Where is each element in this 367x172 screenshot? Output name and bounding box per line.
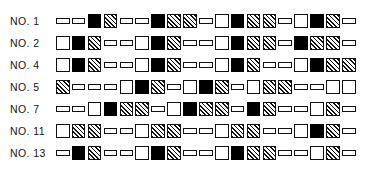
- sequence-cell-hatch: [263, 36, 277, 50]
- sequence-cell-small: [199, 40, 213, 46]
- sequence-cell-black: [72, 146, 86, 160]
- sequence-cell-hatch: [104, 14, 118, 28]
- sequence-cell-small: [278, 62, 292, 68]
- sequence-cell-hatch: [151, 80, 165, 94]
- sequence-cell-small: [135, 18, 149, 24]
- sequence-cell-white: [183, 80, 197, 94]
- sequence-cell-small: [120, 18, 134, 24]
- sequence-cell-group: [56, 76, 356, 98]
- sequence-cell-hatch: [72, 124, 86, 138]
- sequence-cell-hatch: [342, 58, 356, 72]
- sequence-cell-white: [215, 14, 229, 28]
- sequence-cell-black: [151, 146, 165, 160]
- sequence-cell-black: [88, 14, 102, 28]
- sequence-cell-hatch: [151, 124, 165, 138]
- sequence-cell-small: [120, 150, 134, 156]
- sequence-cell-hatch: [183, 14, 197, 28]
- sequence-cell-white: [135, 36, 149, 50]
- sequence-cell-white: [294, 58, 308, 72]
- sequence-cell-small: [231, 106, 245, 112]
- sequence-cell-hatch: [247, 14, 261, 28]
- sequence-cell-small: [120, 62, 134, 68]
- sequence-cell-small: [183, 62, 197, 68]
- sequence-cell-black: [183, 102, 197, 116]
- sequence-cell-group: [56, 54, 356, 76]
- sequence-cell-white: [326, 80, 340, 94]
- sequence-cell-small: [278, 40, 292, 46]
- sequence-cell-hatch: [326, 124, 340, 138]
- sequence-cell-small: [104, 40, 118, 46]
- sequence-row: NO. 4: [0, 54, 367, 76]
- sequence-cell-small: [199, 62, 213, 68]
- sequence-cell-small: [104, 84, 118, 90]
- sequence-cell-small: [183, 150, 197, 156]
- sequence-row: NO. 1: [0, 10, 367, 32]
- sequence-cell-hatch: [326, 58, 340, 72]
- sequence-cell-hatch: [247, 124, 261, 138]
- sequence-cell-group: [56, 120, 356, 142]
- sequence-cell-hatch: [263, 14, 277, 28]
- sequence-cell-black: [231, 146, 245, 160]
- sequence-cell-white: [56, 124, 70, 138]
- sequence-cell-hatch: [278, 80, 292, 94]
- sequence-cell-hatch: [56, 80, 70, 94]
- sequence-cell-white: [135, 58, 149, 72]
- sequence-cell-black: [294, 36, 308, 50]
- sequence-cell-black: [72, 58, 86, 72]
- sequence-cell-white: [167, 102, 181, 116]
- sequence-cell-black: [135, 80, 149, 94]
- sequence-cell-small: [342, 106, 356, 112]
- sequence-cell-white: [310, 146, 324, 160]
- sequence-cell-black: [199, 80, 213, 94]
- sequence-cell-small: [72, 18, 86, 24]
- sequence-row-label: NO. 1: [10, 10, 54, 32]
- sequence-row: NO. 2: [0, 32, 367, 54]
- sequence-cell-white: [294, 124, 308, 138]
- sequence-cell-white: [135, 124, 149, 138]
- sequence-cell-white: [247, 80, 261, 94]
- sequence-cell-hatch: [88, 124, 102, 138]
- sequence-cell-hatch: [247, 36, 261, 50]
- sequence-cell-white: [120, 80, 134, 94]
- sequence-cell-white: [215, 124, 229, 138]
- sequence-cell-small: [183, 40, 197, 46]
- sequence-cell-small: [231, 84, 245, 90]
- sequence-cell-group: [56, 10, 356, 32]
- sequence-cell-hatch: [247, 146, 261, 160]
- sequence-cell-hatch: [263, 146, 277, 160]
- sequence-cell-black: [310, 124, 324, 138]
- sequence-cell-hatch: [88, 146, 102, 160]
- sequence-cell-small: [199, 18, 213, 24]
- sequence-cell-small: [72, 106, 86, 112]
- sequence-row: NO. 5: [0, 76, 367, 98]
- sequence-cell-small: [263, 128, 277, 134]
- sequence-cell-black: [231, 14, 245, 28]
- sequence-cell-white: [135, 146, 149, 160]
- sequence-cell-hatch: [231, 124, 245, 138]
- sequence-cell-small: [88, 84, 102, 90]
- sequence-cell-black: [151, 36, 165, 50]
- sequence-cell-hatch: [167, 14, 181, 28]
- sequence-cell-hatch: [167, 146, 181, 160]
- sequence-cell-small: [56, 18, 70, 24]
- sequence-cell-hatch: [263, 80, 277, 94]
- sequence-cell-small: [263, 62, 277, 68]
- sequence-cell-small: [310, 84, 324, 90]
- sequence-pattern-chart: NO. 1NO. 2NO. 4NO. 5NO. 7NO. 11NO. 13: [0, 0, 367, 172]
- sequence-cell-hatch: [167, 124, 181, 138]
- sequence-cell-black: [247, 102, 261, 116]
- sequence-cell-hatch: [310, 36, 324, 50]
- sequence-cell-white: [215, 58, 229, 72]
- sequence-cell-small: [342, 18, 356, 24]
- sequence-cell-small: [342, 150, 356, 156]
- sequence-cell-small: [294, 84, 308, 90]
- sequence-cell-black: [72, 36, 86, 50]
- sequence-cell-small: [72, 84, 86, 90]
- sequence-cell-hatch: [326, 146, 340, 160]
- sequence-cell-small: [278, 128, 292, 134]
- sequence-cell-white: [294, 14, 308, 28]
- sequence-row-label: NO. 5: [10, 76, 54, 98]
- sequence-cell-hatch: [135, 102, 149, 116]
- sequence-cell-small: [199, 150, 213, 156]
- sequence-cell-black: [104, 102, 118, 116]
